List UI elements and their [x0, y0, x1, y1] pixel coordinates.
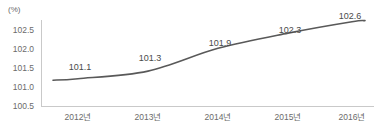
- x-axis-tick-label: 2012년: [65, 110, 92, 122]
- x-axis-tick-label: 2013년: [135, 110, 162, 122]
- x-axis-tick-label: 2016년: [339, 110, 366, 122]
- data-point-label: 101.3: [139, 53, 162, 63]
- chart-plot-area: [0, 0, 374, 132]
- data-line-series: [53, 20, 365, 80]
- data-point-label: 102.6: [339, 11, 362, 21]
- data-point-label: 102.3: [279, 25, 302, 35]
- line-chart: (%) 102.5 102.0 101.5 101.0 100.5 2012년 …: [0, 0, 374, 132]
- x-axis-tick-label: 2014년: [205, 110, 232, 122]
- data-point-label: 101.9: [209, 38, 232, 48]
- data-point-label: 101.1: [69, 62, 92, 72]
- x-axis-tick-label: 2015년: [275, 110, 302, 122]
